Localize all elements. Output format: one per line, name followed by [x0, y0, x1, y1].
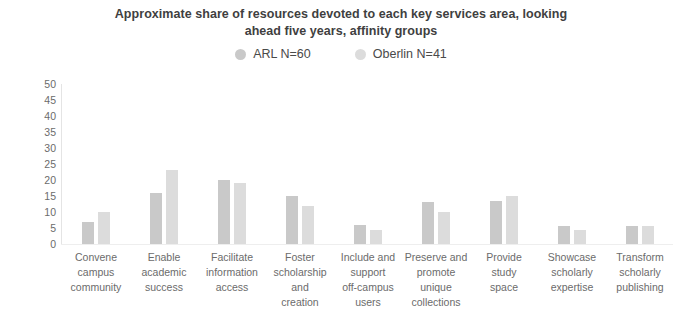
- x-axis-label: Transformscholarlypublishing: [606, 250, 674, 310]
- x-axis-label: Fosterscholarshipandcreation: [266, 250, 334, 310]
- bar[interactable]: [558, 226, 570, 244]
- legend-item-arl: ARL N=60: [235, 48, 311, 61]
- x-axis-label: Showcasescholarlyexpertise: [538, 250, 606, 310]
- bar-group: [334, 84, 402, 244]
- bar[interactable]: [218, 180, 230, 244]
- bar[interactable]: [286, 196, 298, 244]
- y-axis-tick-30: 30: [30, 143, 56, 153]
- bar[interactable]: [302, 206, 314, 244]
- legend-label-oberlin: Oberlin N=41: [373, 48, 447, 61]
- bar[interactable]: [626, 226, 638, 244]
- bar-group: [266, 84, 334, 244]
- x-axis-label: Enableacademicsuccess: [130, 250, 198, 310]
- chart-title: Approximate share of resources devoted t…: [96, 6, 586, 40]
- legend-swatch-icon-arl: [235, 49, 246, 60]
- x-axis-baseline: [61, 244, 673, 245]
- bar[interactable]: [642, 226, 654, 244]
- x-axis-labels: ConvenecampuscommunityEnableacademicsucc…: [62, 250, 674, 310]
- bar[interactable]: [490, 201, 502, 244]
- bar-group: [538, 84, 606, 244]
- x-axis-label: Preserve andpromoteuniquecollections: [402, 250, 470, 310]
- x-axis-label: Facilitateinformationaccess: [198, 250, 266, 310]
- bar[interactable]: [234, 183, 246, 244]
- bar-chart: Approximate share of resources devoted t…: [0, 0, 682, 321]
- y-axis: 50454035302520151050: [30, 80, 56, 244]
- chart-legend: ARL N=60 Oberlin N=41: [0, 48, 682, 61]
- bar[interactable]: [98, 212, 110, 244]
- y-axis-tick-25: 25: [30, 159, 56, 169]
- bar-group: [470, 84, 538, 244]
- legend-item-oberlin: Oberlin N=41: [355, 48, 447, 61]
- y-axis-tick-15: 15: [30, 191, 56, 201]
- bar[interactable]: [82, 222, 94, 244]
- y-axis-tick-50: 50: [30, 79, 56, 89]
- chart-title-line-2: ahead five years, affinity groups: [96, 23, 586, 40]
- chart-title-line-1: Approximate share of resources devoted t…: [96, 6, 586, 23]
- bar[interactable]: [422, 202, 434, 244]
- y-axis-tick-0: 0: [30, 239, 56, 249]
- bar[interactable]: [150, 193, 162, 244]
- y-axis-tick-35: 35: [30, 127, 56, 137]
- bar[interactable]: [574, 230, 586, 244]
- bar-group: [606, 84, 674, 244]
- x-axis-label: Convenecampuscommunity: [62, 250, 130, 310]
- bar-group: [198, 84, 266, 244]
- y-axis-tick-45: 45: [30, 95, 56, 105]
- plot-area: 50454035302520151050: [0, 80, 682, 255]
- bar-group: [402, 84, 470, 244]
- y-axis-tick-10: 10: [30, 207, 56, 217]
- y-axis-tick-20: 20: [30, 175, 56, 185]
- bar[interactable]: [506, 196, 518, 244]
- legend-label-arl: ARL N=60: [253, 48, 311, 61]
- y-axis-tick-5: 5: [30, 223, 56, 233]
- bar-group: [62, 84, 130, 244]
- bar[interactable]: [166, 170, 178, 244]
- y-axis-tick-40: 40: [30, 111, 56, 121]
- bars-container: [62, 84, 674, 244]
- legend-swatch-icon-oberlin: [355, 49, 366, 60]
- bar[interactable]: [438, 212, 450, 244]
- x-axis-label: Providestudyspace: [470, 250, 538, 310]
- x-axis-label: Include andsupportoff-campususers: [334, 250, 402, 310]
- bar-group: [130, 84, 198, 244]
- bar[interactable]: [354, 225, 366, 244]
- bar[interactable]: [370, 230, 382, 244]
